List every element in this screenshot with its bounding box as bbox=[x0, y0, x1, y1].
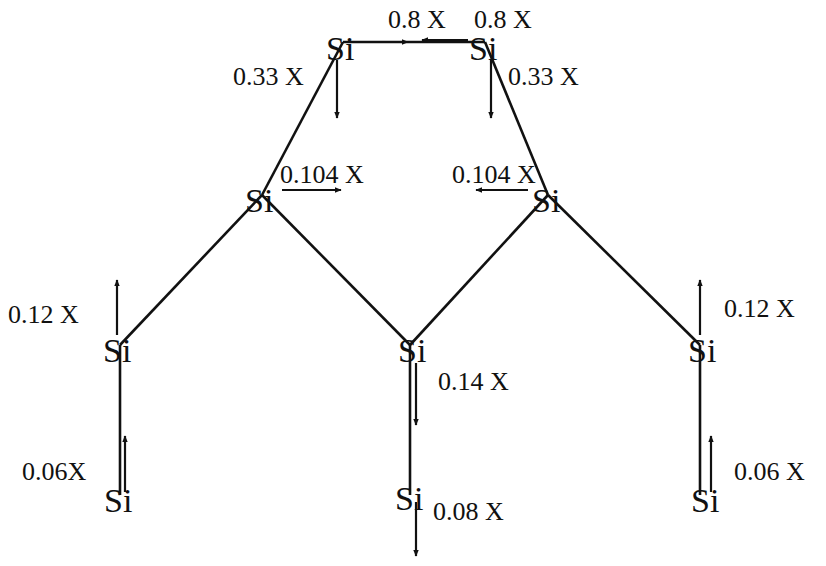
atom-si-top-left: Si bbox=[326, 30, 354, 67]
displacement-label-top-left-right: 0.8 X bbox=[388, 5, 446, 34]
bond-mid-right-center bbox=[410, 195, 548, 345]
atom-si-lower-left: Si bbox=[103, 332, 131, 369]
bond-mid-right-lower-right bbox=[548, 195, 700, 345]
atom-si-mid-left: Si bbox=[245, 182, 273, 219]
displacement-label-mid-right-left: 0.104 X bbox=[452, 160, 536, 189]
bond-mid-left-lower-left bbox=[120, 195, 262, 345]
displacement-label-mid-left-right: 0.104 X bbox=[280, 160, 364, 189]
atom-si-bottom-right: Si bbox=[691, 482, 719, 519]
displacement-label-bottom-right-up: 0.06 X bbox=[734, 457, 805, 486]
displacement-label-lower-left-up: 0.12 X bbox=[8, 300, 79, 329]
atom-si-center: Si bbox=[398, 332, 426, 369]
displacement-vectors-layer bbox=[117, 40, 711, 556]
displacement-label-top-right-left: 0.8 X bbox=[474, 5, 532, 34]
displacement-label-top-left-down: 0.33 X bbox=[233, 62, 304, 91]
displacement-label-bottom-center-down: 0.08 X bbox=[433, 497, 504, 526]
atom-si-lower-right: Si bbox=[688, 332, 716, 369]
atom-si-bottom-center: Si bbox=[395, 480, 423, 517]
atom-si-top-right: Si bbox=[469, 30, 497, 67]
displacement-label-top-right-down: 0.33 X bbox=[508, 62, 579, 91]
atom-si-bottom-left: Si bbox=[104, 482, 132, 519]
bonds-layer bbox=[120, 42, 700, 495]
displacement-label-bottom-left-up: 0.06X bbox=[22, 457, 87, 486]
displacement-label-lower-right-up: 0.12 X bbox=[724, 294, 795, 323]
atom-si-mid-right: Si bbox=[532, 182, 560, 219]
displacement-label-center-down: 0.14 X bbox=[438, 367, 509, 396]
displacement-labels-layer: 0.8 X0.8 X0.33 X0.33 X0.104 X0.104 X0.12… bbox=[8, 5, 805, 526]
bond-mid-left-center bbox=[262, 195, 410, 345]
si-cluster-diagram: SiSiSiSiSiSiSiSiSiSi 0.8 X0.8 X0.33 X0.3… bbox=[0, 0, 826, 566]
